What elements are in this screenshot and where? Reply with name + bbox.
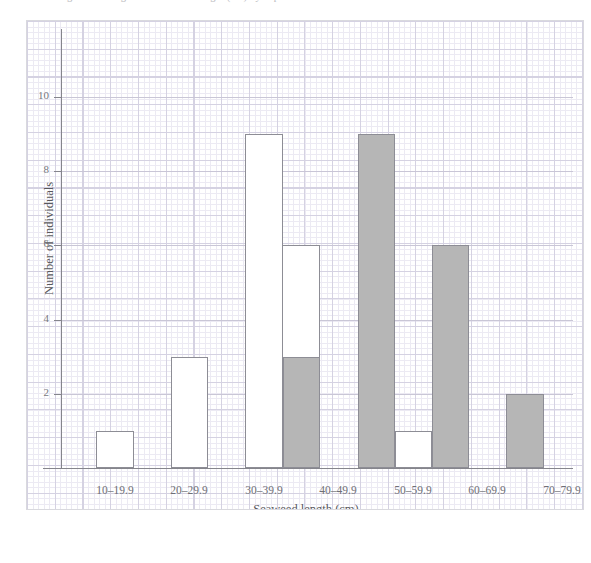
x-axis-tick-label: 60–69.9 bbox=[468, 484, 505, 496]
x-axis-tick-label: 70–79.9 bbox=[543, 484, 580, 496]
x-axis-tick-label: 20–29.9 bbox=[170, 484, 207, 496]
x-axis-tick-label: 10–19.9 bbox=[96, 484, 133, 496]
y-axis-tick-label: 6 bbox=[44, 237, 50, 249]
y-axis-tick: 8 bbox=[54, 171, 62, 172]
y-axis-tick: 10 bbox=[54, 97, 62, 98]
x-axis-line bbox=[43, 468, 573, 469]
y-axis-tick-label: 8 bbox=[44, 163, 50, 175]
plot-area: Number of individuals Seaweed length (cm… bbox=[27, 21, 584, 510]
y-axis-tick: 2 bbox=[54, 394, 62, 395]
x-axis-title: Seaweed length (cm) bbox=[27, 502, 584, 510]
y-axis-tick-label: 2 bbox=[44, 386, 50, 398]
histogram-bar bbox=[171, 357, 208, 468]
plot-frame: Number of individuals Seaweed length (cm… bbox=[26, 20, 584, 510]
y-gridline bbox=[62, 171, 573, 172]
histogram-bar bbox=[395, 431, 432, 468]
histogram-figure: Number of individuals Seaweed length (cm… bbox=[0, 0, 591, 563]
y-axis-tick-label: 4 bbox=[44, 312, 50, 324]
histogram-bar bbox=[245, 134, 283, 468]
x-axis-tick-label: 40–49.9 bbox=[319, 484, 356, 496]
y-gridline bbox=[62, 97, 573, 98]
histogram-bar bbox=[432, 245, 469, 468]
y-axis-tick: 4 bbox=[54, 320, 62, 321]
x-axis-tick-label: 50–59.9 bbox=[394, 484, 431, 496]
histogram-bar bbox=[506, 394, 544, 468]
histogram-bar bbox=[96, 431, 134, 468]
y-axis-tick-label: 10 bbox=[38, 89, 49, 101]
histogram-bar bbox=[283, 357, 320, 468]
y-axis-tick: 6 bbox=[54, 245, 62, 246]
histogram-bar bbox=[358, 134, 395, 468]
y-axis-line bbox=[61, 29, 62, 469]
x-axis-tick-label: 30–39.9 bbox=[245, 484, 282, 496]
